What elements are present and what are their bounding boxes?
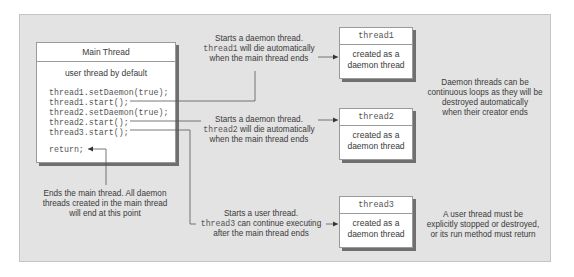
connector-lines bbox=[0, 0, 574, 277]
thread3-start-connector bbox=[130, 130, 196, 224]
return-connector bbox=[88, 149, 106, 185]
thread1-start-connector bbox=[130, 71, 255, 101]
